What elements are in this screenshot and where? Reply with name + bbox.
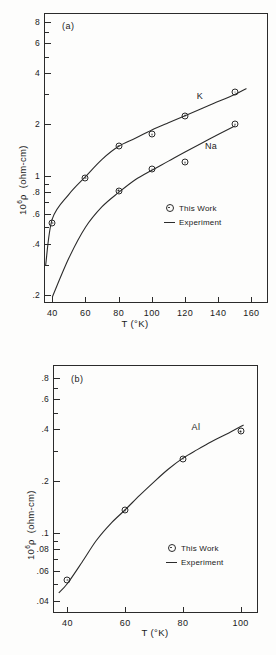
figure-canvas: 106ρ (ohm-cm) (a) .2.4.6.812468 40608010… bbox=[0, 0, 276, 655]
x-tick-label: 80 bbox=[113, 308, 124, 318]
y-tick-label: 2 bbox=[35, 119, 40, 129]
data-point-K bbox=[82, 175, 89, 182]
y-tick bbox=[44, 73, 51, 74]
y-tick-minor bbox=[53, 584, 58, 585]
y-tick bbox=[44, 295, 51, 296]
y-tick-label: .08 bbox=[37, 544, 49, 554]
y-tick-label: .8 bbox=[33, 187, 41, 197]
y-tick-label: .8 bbox=[42, 373, 50, 383]
data-point-Na bbox=[182, 159, 189, 166]
panel-b-curves bbox=[53, 365, 258, 613]
curve-label-Al: Al bbox=[192, 422, 201, 432]
panel-a-plot-area bbox=[44, 13, 268, 303]
data-point-Na bbox=[231, 121, 238, 128]
legend-entry-experiment: Experiment bbox=[165, 557, 223, 567]
y-tick-label: .6 bbox=[33, 209, 41, 219]
legend-label-this-work: This Work bbox=[181, 544, 219, 553]
legend-entry-this-work: This Work bbox=[165, 543, 223, 553]
y-tick-minor bbox=[44, 57, 49, 58]
y-tick-label: .4 bbox=[42, 424, 50, 434]
x-tick-label: 140 bbox=[210, 308, 226, 318]
y-tick-label: .2 bbox=[42, 476, 50, 486]
x-tick bbox=[218, 297, 219, 303]
data-point-Al bbox=[122, 507, 129, 514]
circle-dot-marker-icon bbox=[165, 544, 178, 552]
y-tick-label: .4 bbox=[33, 239, 41, 249]
panel-b-legend: This Work Experiment bbox=[165, 543, 223, 571]
x-tick-label: 120 bbox=[177, 308, 193, 318]
y-tick-label: 8 bbox=[35, 17, 40, 27]
panel-b-x-axis-title: T (°K) bbox=[141, 627, 168, 638]
y-tick-minor bbox=[53, 559, 58, 560]
solid-line-swatch-icon bbox=[165, 562, 178, 563]
y-tick-minor bbox=[44, 184, 49, 185]
legend-label-experiment: Experiment bbox=[181, 558, 223, 567]
panel-a-legend: This Work Experiment bbox=[163, 203, 221, 231]
y-tick-minor bbox=[44, 32, 49, 33]
data-point-Na bbox=[115, 187, 122, 194]
y-tick-minor bbox=[44, 94, 49, 95]
y-tick bbox=[44, 214, 51, 215]
y-tick bbox=[53, 549, 60, 550]
x-tick bbox=[67, 607, 68, 613]
y-tick bbox=[44, 43, 51, 44]
x-tick bbox=[52, 297, 53, 303]
y-tick-minor bbox=[53, 541, 58, 542]
x-tick-label: 40 bbox=[62, 618, 73, 628]
y-tick bbox=[53, 378, 60, 379]
legend-entry-experiment: Experiment bbox=[163, 217, 221, 227]
panel-a-y-axis-title: 106ρ (ohm-cm) bbox=[16, 145, 28, 215]
circle-dot-marker-icon bbox=[163, 204, 176, 212]
y-tick-minor bbox=[44, 265, 49, 266]
legend-label-this-work: This Work bbox=[179, 204, 217, 213]
x-tick-label: 160 bbox=[243, 308, 259, 318]
panel-b: 106ρ (ohm-cm) (b) .04.06.08.1.2.4.6.8 40… bbox=[0, 355, 276, 655]
panel-b-plot-area bbox=[53, 365, 258, 613]
x-tick bbox=[125, 607, 126, 613]
y-tick-label: 1 bbox=[35, 171, 40, 181]
data-point-K bbox=[182, 112, 189, 119]
y-tick bbox=[53, 571, 60, 572]
data-point-K bbox=[148, 131, 155, 138]
y-tick-minor bbox=[44, 202, 49, 203]
x-tick-label: 100 bbox=[233, 618, 249, 628]
data-point-K bbox=[49, 219, 56, 226]
curve-label-K: K bbox=[197, 91, 203, 101]
legend-entry-this-work: This Work bbox=[163, 203, 221, 213]
y-tick-minor bbox=[53, 413, 58, 414]
data-point-Na bbox=[148, 165, 155, 172]
y-tick-label: .2 bbox=[33, 290, 41, 300]
y-tick bbox=[53, 399, 60, 400]
x-tick bbox=[241, 607, 242, 613]
data-point-Al bbox=[179, 455, 186, 462]
data-point-Al bbox=[237, 428, 244, 435]
x-tick bbox=[185, 297, 186, 303]
y-tick bbox=[44, 244, 51, 245]
y-tick bbox=[53, 429, 60, 430]
y-tick bbox=[53, 533, 60, 534]
y-tick bbox=[44, 192, 51, 193]
y-tick-label: .6 bbox=[42, 394, 50, 404]
data-point-Al bbox=[64, 576, 71, 583]
x-tick bbox=[251, 297, 252, 303]
y-tick bbox=[44, 176, 51, 177]
y-tick bbox=[53, 601, 60, 602]
panel-b-y-axis-title: 106ρ (ohm-cm) bbox=[24, 490, 36, 560]
x-tick-label: 40 bbox=[47, 308, 58, 318]
solid-line-swatch-icon bbox=[163, 222, 176, 223]
legend-label-experiment: Experiment bbox=[179, 218, 221, 227]
x-tick bbox=[152, 297, 153, 303]
y-tick-label: .1 bbox=[42, 528, 50, 538]
panel-a: 106ρ (ohm-cm) (a) .2.4.6.812468 40608010… bbox=[0, 0, 276, 330]
series-curve-K bbox=[46, 89, 247, 266]
panel-a-curves bbox=[44, 13, 268, 303]
x-tick bbox=[119, 297, 120, 303]
y-tick-minor bbox=[44, 227, 49, 228]
y-tick-label: .06 bbox=[37, 566, 49, 576]
y-tick-minor bbox=[53, 451, 58, 452]
x-tick-label: 80 bbox=[178, 618, 189, 628]
data-point-K bbox=[115, 142, 122, 149]
y-tick-label: .04 bbox=[37, 596, 49, 606]
x-tick bbox=[183, 607, 184, 613]
y-tick-label: 4 bbox=[35, 68, 40, 78]
